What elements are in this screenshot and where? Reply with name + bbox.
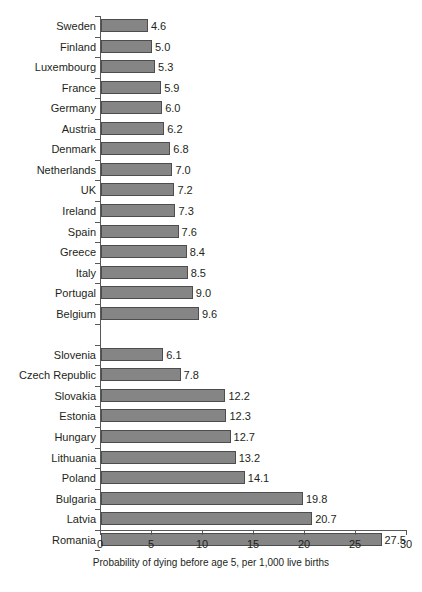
chart-container: Sweden4.6Finland5.0Luxembourg5.3France5.…: [0, 0, 422, 592]
bar: [101, 348, 163, 361]
bar-value-label: 12.3: [229, 408, 250, 424]
bar: [101, 101, 162, 114]
bar: [101, 471, 245, 484]
bar: [101, 122, 164, 135]
x-axis-tick-label: 5: [131, 537, 171, 551]
bar: [101, 451, 236, 464]
x-axis-tick-label: 30: [386, 537, 422, 551]
category-axis-tick: [95, 509, 100, 510]
bar-value-label: 7.3: [178, 203, 193, 219]
category-label: Netherlands: [0, 162, 96, 178]
bar: [101, 40, 152, 53]
bar-value-label: 4.6: [151, 18, 166, 34]
category-label: Hungary: [0, 429, 96, 445]
category-axis-tick: [95, 324, 100, 325]
x-axis-tick-label: 0: [80, 537, 120, 551]
category-axis-tick: [95, 57, 100, 58]
bar-row: Italy8.5: [0, 263, 422, 284]
category-axis-tick: [95, 160, 100, 161]
bar: [101, 368, 181, 381]
bar-row-spacer: [0, 324, 422, 345]
bar: [101, 204, 175, 217]
bar-row: Slovenia6.1: [0, 345, 422, 366]
category-label: Ireland: [0, 203, 96, 219]
bar-row: Luxembourg5.3: [0, 57, 422, 78]
category-axis-tick: [95, 78, 100, 79]
category-axis-tick: [95, 16, 100, 17]
x-axis-tick: [253, 530, 254, 535]
bar-value-label: 12.7: [234, 429, 255, 445]
x-axis-tick-label: 10: [182, 537, 222, 551]
category-label: Bulgaria: [0, 491, 96, 507]
category-label: Slovakia: [0, 388, 96, 404]
category-label: Estonia: [0, 408, 96, 424]
bar: [101, 19, 148, 32]
bar: [101, 183, 174, 196]
bar-row: Netherlands7.0: [0, 160, 422, 181]
category-label: Denmark: [0, 141, 96, 157]
bar: [101, 492, 303, 505]
category-axis-tick: [95, 180, 100, 181]
category-label: UK: [0, 182, 96, 198]
bar-value-label: 5.3: [158, 59, 173, 75]
bar-row: Germany6.0: [0, 98, 422, 119]
bar: [101, 307, 199, 320]
x-axis-tick-label: 15: [233, 537, 273, 551]
bar: [101, 389, 225, 402]
category-label: Belgium: [0, 306, 96, 322]
x-axis-tick: [202, 530, 203, 535]
x-axis-tick: [304, 530, 305, 535]
bar-value-label: 9.6: [202, 306, 217, 322]
category-axis-tick: [95, 427, 100, 428]
bar-value-label: 12.2: [228, 388, 249, 404]
bar-value-label: 5.0: [155, 39, 170, 55]
bar-value-label: 8.5: [191, 265, 206, 281]
bar-row: Ireland7.3: [0, 201, 422, 222]
x-axis-tick-label: 25: [335, 537, 375, 551]
bar-row: Finland5.0: [0, 37, 422, 58]
category-axis-tick: [95, 345, 100, 346]
category-axis-tick: [95, 242, 100, 243]
bar-row: Estonia12.3: [0, 406, 422, 427]
bar-row: Lithuania13.2: [0, 448, 422, 469]
bar: [101, 245, 187, 258]
bar: [101, 142, 170, 155]
category-axis-tick: [95, 386, 100, 387]
x-axis-tick-label: 20: [284, 537, 324, 551]
category-axis-tick: [95, 283, 100, 284]
plot-area: Sweden4.6Finland5.0Luxembourg5.3France5.…: [0, 0, 422, 592]
category-axis-tick: [95, 201, 100, 202]
bar-row: Slovakia12.2: [0, 386, 422, 407]
bar-value-label: 14.1: [248, 470, 269, 486]
category-axis-tick: [95, 365, 100, 366]
bar-row: France5.9: [0, 78, 422, 99]
bar-row: Belgium9.6: [0, 304, 422, 325]
category-label: France: [0, 80, 96, 96]
x-axis-tick: [406, 530, 407, 535]
bar-value-label: 6.0: [165, 100, 180, 116]
bar: [101, 163, 172, 176]
category-axis-tick: [95, 37, 100, 38]
bar: [101, 409, 226, 422]
category-axis-tick: [95, 139, 100, 140]
bar-value-label: 5.9: [164, 80, 179, 96]
bar-row: Greece8.4: [0, 242, 422, 263]
category-axis-tick: [95, 489, 100, 490]
bar-row: Latvia20.7: [0, 509, 422, 530]
category-axis-tick: [95, 448, 100, 449]
bar-value-label: 6.2: [167, 121, 182, 137]
bar-value-label: 19.8: [306, 491, 327, 507]
category-label: Portugal: [0, 285, 96, 301]
bar-value-label: 6.1: [166, 347, 181, 363]
bar: [101, 81, 161, 94]
bar-row: Denmark6.8: [0, 139, 422, 160]
bar-value-label: 20.7: [315, 511, 336, 527]
bar-row: UK7.2: [0, 180, 422, 201]
category-axis-tick: [95, 119, 100, 120]
x-axis-tick: [355, 530, 356, 535]
bar-value-label: 9.0: [196, 285, 211, 301]
bar-value-label: 7.2: [177, 182, 192, 198]
bar-value-label: 7.0: [175, 162, 190, 178]
bar: [101, 286, 193, 299]
category-label: Czech Republic: [0, 367, 96, 383]
